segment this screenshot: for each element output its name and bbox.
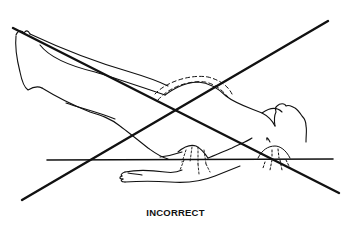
strain-arcs bbox=[155, 76, 232, 100]
prone-leg-raise-drawing bbox=[0, 0, 351, 226]
exercise-illustration bbox=[0, 0, 351, 226]
cross-line-up bbox=[22, 21, 328, 200]
figure-caption: INCORRECT bbox=[0, 207, 351, 218]
torso bbox=[160, 82, 282, 157]
